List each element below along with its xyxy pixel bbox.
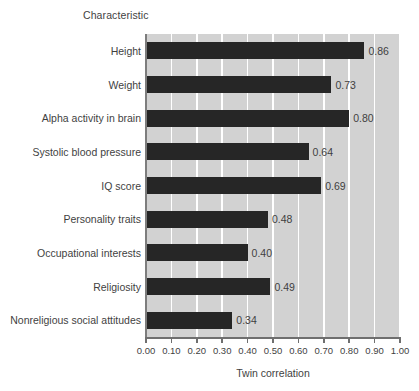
x-tick-mark [247,338,249,343]
x-tick-label: 0.90 [365,345,384,356]
x-tick-label: 0.40 [238,345,257,356]
x-tick-mark [323,338,325,343]
x-tick-label: 1.00 [391,345,410,356]
bar[interactable] [146,110,349,127]
x-tick-mark [399,338,401,343]
bar[interactable] [146,244,248,261]
bar-value-label: 0.73 [331,79,355,91]
x-tick-mark [298,338,300,343]
plot-area: 0.860.730.800.640.690.480.400.490.34 [146,34,400,337]
category-label: IQ score [5,180,145,192]
bar-value-label: 0.49 [270,281,294,293]
category-label: Weight [5,79,145,91]
bar-value-label: 0.40 [248,247,272,259]
bar-row: 0.80 [146,110,400,127]
x-tick-mark [145,338,147,343]
x-tick-label: 0.50 [264,345,283,356]
x-tick-mark [196,338,198,343]
bar-row: 0.40 [146,244,400,261]
category-label: Occupational interests [5,247,145,259]
x-tick-label: 0.80 [340,345,359,356]
bar-row: 0.48 [146,211,400,228]
y-axis-line [145,34,147,337]
bar-value-label: 0.48 [268,213,292,225]
category-label: Personality traits [5,213,145,225]
category-label-layer: HeightWeightAlpha activity in brainSysto… [0,0,145,391]
x-axis-title: Twin correlation [236,367,310,379]
bar-value-label: 0.64 [309,146,333,158]
x-tick-mark [272,338,274,343]
x-tick-mark [221,338,223,343]
bar-row: 0.73 [146,76,400,93]
x-tick-label: 0.30 [213,345,232,356]
bar[interactable] [146,177,321,194]
bar[interactable] [146,312,232,329]
category-label: Systolic blood pressure [5,146,145,158]
x-tick-label: 0.70 [315,345,334,356]
category-label: Height [5,45,145,57]
bar-row: 0.64 [146,143,400,160]
x-tick-label: 0.00 [137,345,156,356]
bar-row: 0.69 [146,177,400,194]
category-label: Alpha activity in brain [5,112,145,124]
bar[interactable] [146,278,270,295]
x-tick-label: 0.20 [188,345,207,356]
category-label: Religiosity [5,281,145,293]
bar-value-label: 0.80 [349,112,373,124]
bar[interactable] [146,42,364,59]
x-tick-mark [348,338,350,343]
bar[interactable] [146,211,268,228]
bar-value-label: 0.34 [232,314,256,326]
x-tick-label: 0.10 [162,345,181,356]
x-tick-label: 0.60 [289,345,308,356]
x-tick-mark [171,338,173,343]
x-tick-mark [374,338,376,343]
bar-row: 0.86 [146,42,400,59]
bar-value-label: 0.69 [321,180,345,192]
bar-row: 0.49 [146,278,400,295]
category-label: Nonreligious social attitudes [5,314,145,326]
bar[interactable] [146,76,331,93]
bar-value-label: 0.86 [364,45,388,57]
bar-row: 0.34 [146,312,400,329]
bar[interactable] [146,143,309,160]
